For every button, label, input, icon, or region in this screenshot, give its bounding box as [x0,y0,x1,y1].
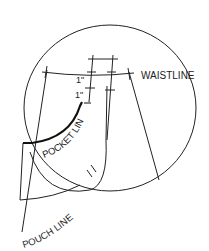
right-guide [107,55,113,140]
measure-label-1: 1" [76,75,84,85]
measure-label-2: 1" [75,90,83,100]
left-guide [89,55,93,102]
outer-circle [24,25,196,191]
pocket-line-label: POCKET LINE [0,0,86,160]
diagram-svg: WAISTLINE 1" 1" POCKET LINE POUCH LINE [0,0,209,251]
waistline-label: WAISTLINE [141,70,195,81]
pouch-line-label: POUCH LINE [21,211,75,250]
pouch-box-edge [20,143,23,200]
right-seam [129,72,159,180]
pocket-pattern-diagram: WAISTLINE 1" 1" POCKET LINE POUCH LINE [0,0,209,251]
